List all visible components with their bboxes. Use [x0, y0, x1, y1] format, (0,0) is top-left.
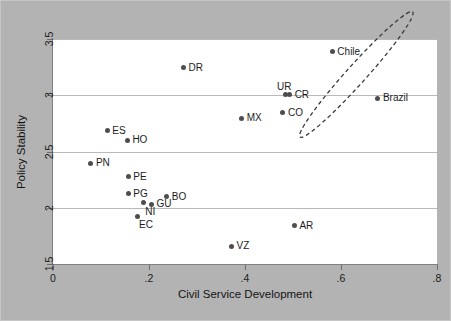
- y-axis-title: Policy Stability: [15, 114, 27, 188]
- x-tick-.4: [245, 265, 246, 270]
- y-tick-label-3: 3: [43, 92, 55, 98]
- chart-figure: 0.2.4.6.8 1.522.533.5 DRChileURCRBrazilC…: [0, 0, 451, 321]
- data-point-ho: [125, 138, 130, 143]
- data-point-label-cr: CR: [295, 89, 309, 100]
- y-tick-label-2.5: 2.5: [43, 145, 55, 160]
- x-tick-.6: [341, 265, 342, 270]
- data-point-vz: [229, 244, 234, 249]
- data-point-label-brazil: Brazil: [383, 92, 408, 103]
- x-tick-.2: [149, 265, 150, 270]
- y-tick-label-2: 2: [43, 205, 55, 211]
- x-tick-label-0: 0: [50, 272, 56, 284]
- data-point-label-gu: GU: [156, 198, 171, 209]
- x-tick-label-.6: .6: [337, 272, 346, 284]
- gridline-y-3: [53, 95, 437, 96]
- data-point-label-mx: MX: [247, 112, 262, 123]
- data-point-label-pe: PE: [133, 171, 146, 182]
- data-point-label-ec: EC: [139, 219, 153, 230]
- data-point-label-vz: VZ: [237, 240, 250, 251]
- data-point-label-pn: PN: [96, 157, 110, 168]
- data-point-ec: [135, 214, 140, 219]
- data-point-label-pg: PG: [133, 188, 147, 199]
- gridline-y-3.5: [53, 39, 437, 40]
- data-point-label-chile: Chile: [337, 46, 360, 57]
- x-tick-label-.8: .8: [433, 272, 442, 284]
- x-tick-.8: [437, 265, 438, 270]
- data-point-es: [105, 128, 110, 133]
- data-point-label-bo: BO: [172, 191, 186, 202]
- data-point-label-ni: NI: [145, 206, 155, 217]
- data-point-label-ur: UR: [277, 81, 291, 92]
- data-point-ni: [141, 200, 146, 205]
- data-point-label-es: ES: [112, 125, 125, 136]
- data-point-label-dr: DR: [189, 62, 203, 73]
- data-point-mx: [239, 116, 244, 121]
- data-point-label-ar: AR: [299, 220, 313, 231]
- data-point-label-co: CO: [288, 107, 303, 118]
- gridline-y-2: [53, 208, 437, 209]
- x-axis-title: Civil Service Development: [178, 288, 312, 300]
- gridline-y-2.5: [53, 152, 437, 153]
- x-tick-label-.4: .4: [241, 272, 250, 284]
- y-tick-label-3.5: 3.5: [43, 32, 55, 47]
- y-tick-label-1.5: 1.5: [43, 257, 55, 272]
- x-tick-label-.2: .2: [145, 272, 154, 284]
- data-point-label-ho: HO: [132, 134, 147, 145]
